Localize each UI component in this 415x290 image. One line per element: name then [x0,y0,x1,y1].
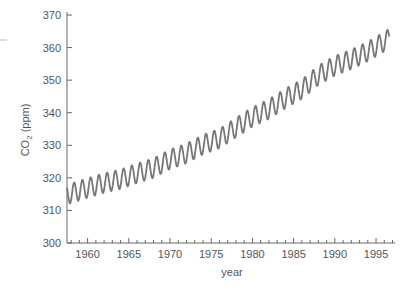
co2-series-line [67,30,389,203]
x-tick-label: 1975 [199,248,223,260]
y-tick-label: 320 [43,172,61,184]
y-axis-label: CO2 (ppm) [19,104,34,157]
x-axis: 19601965197019751980198519901995 [67,238,395,260]
y-tick-label: 360 [43,42,61,54]
y-axis: 300310320330340350360370 [43,9,72,249]
x-tick-label: 1990 [323,248,347,260]
x-tick-label: 1965 [117,248,141,260]
x-axis-label: year [221,266,243,278]
co2-line-chart: 300310320330340350360370 196019651970197… [0,0,415,290]
x-tick-label: 1970 [158,248,182,260]
y-tick-label: 330 [43,139,61,151]
y-tick-label: 300 [43,237,61,249]
x-tick-label: 1995 [364,248,388,260]
y-tick-label: 340 [43,107,61,119]
y-tick-label: 350 [43,74,61,86]
y-tick-label: 370 [43,9,61,21]
x-tick-label: 1960 [75,248,99,260]
y-tick-label: 310 [43,204,61,216]
plot-area [67,30,389,203]
x-tick-label: 1980 [240,248,264,260]
x-tick-label: 1985 [281,248,305,260]
